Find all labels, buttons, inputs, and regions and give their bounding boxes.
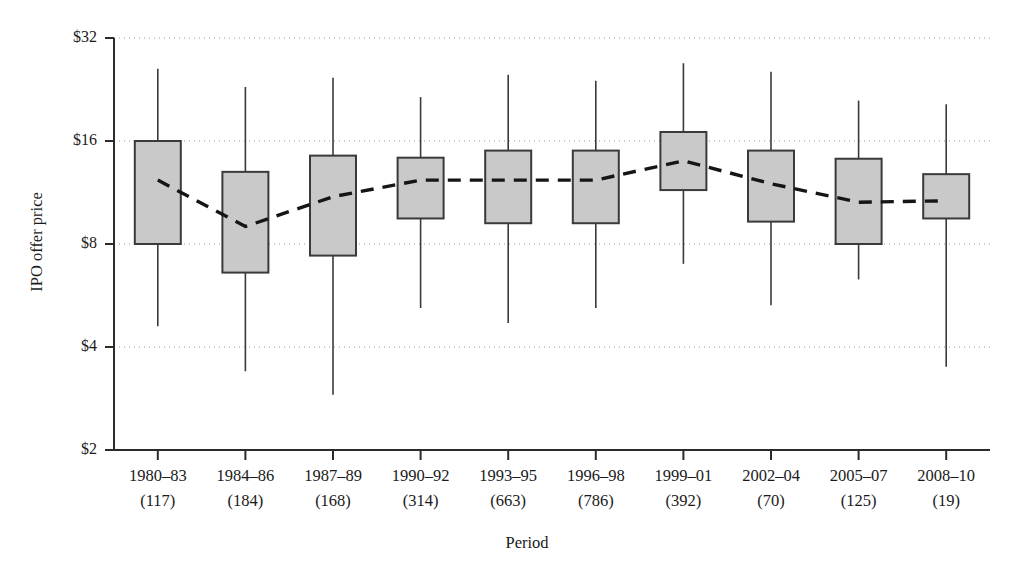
x-tick-label-period: 1993–95 — [479, 466, 537, 485]
y-tick-label-32: $32 — [73, 28, 97, 45]
interquartile-box — [398, 158, 444, 219]
y-tick-label-2: $2 — [81, 440, 97, 457]
x-tick-label-count: (117) — [140, 491, 175, 510]
x-tick-label-count: (786) — [578, 491, 614, 510]
x-tick-label-count: (168) — [315, 491, 351, 510]
box-series — [135, 63, 969, 395]
x-tick-label-period: 1990–92 — [392, 466, 450, 485]
interquartile-box — [310, 156, 356, 256]
interquartile-box — [748, 151, 794, 222]
y-tick-label-16: $16 — [73, 131, 97, 148]
box-plot-1996–98 — [573, 81, 619, 308]
box-plot-1984–86 — [222, 87, 268, 371]
box-plot-1980–83 — [135, 69, 181, 326]
y-tick-label-8: $8 — [81, 234, 97, 251]
x-tick-label-period: 2008–10 — [917, 466, 975, 485]
interquartile-box — [836, 159, 882, 244]
x-axis-tick-labels: 1980–83(117)1984–86(184)1987–89(168)1990… — [129, 466, 975, 510]
box-plot-2005–07 — [836, 101, 882, 280]
x-tick-label-period: 1980–83 — [129, 466, 187, 485]
x-tick-label-period: 1996–98 — [567, 466, 625, 485]
mean-trend-polyline — [158, 161, 946, 227]
interquartile-box — [135, 141, 181, 244]
box-plot-2008–10 — [923, 104, 969, 367]
x-tick-label-period: 2005–07 — [830, 466, 888, 485]
interquartile-box — [485, 151, 531, 224]
interquartile-box — [573, 151, 619, 224]
x-tick-label-period: 1984–86 — [217, 466, 275, 485]
x-tick-label-period: 1999–01 — [655, 466, 713, 485]
x-tick-label-count: (392) — [666, 491, 702, 510]
x-tick-label-count: (663) — [490, 491, 526, 510]
interquartile-box — [923, 174, 969, 218]
x-tick-label-count: (314) — [403, 491, 439, 510]
y-axis-tick-labels: $2$4$8$16$32 — [73, 28, 97, 457]
x-tick-label-count: (19) — [932, 491, 960, 510]
box-plot-1993–95 — [485, 75, 531, 323]
y-axis-title: IPO offer price — [27, 192, 46, 292]
x-tick-label-period: 2002–04 — [742, 466, 800, 485]
chart-figure: $2$4$8$16$32 1980–83(117)1984–86(184)198… — [0, 0, 1015, 575]
mean-trend-line — [158, 161, 946, 227]
box-plot-2002–04 — [748, 72, 794, 305]
x-tick-label-count: (184) — [228, 491, 264, 510]
boxplot-svg: $2$4$8$16$32 1980–83(117)1984–86(184)198… — [0, 0, 1015, 575]
x-axis-title: Period — [505, 533, 549, 552]
x-tick-label-period: 1987–89 — [304, 466, 362, 485]
y-tick-label-4: $4 — [81, 337, 97, 354]
x-tick-label-count: (70) — [757, 491, 785, 510]
x-tick-label-count: (125) — [841, 491, 877, 510]
interquartile-box — [660, 132, 706, 190]
box-plot-1990–92 — [398, 97, 444, 308]
